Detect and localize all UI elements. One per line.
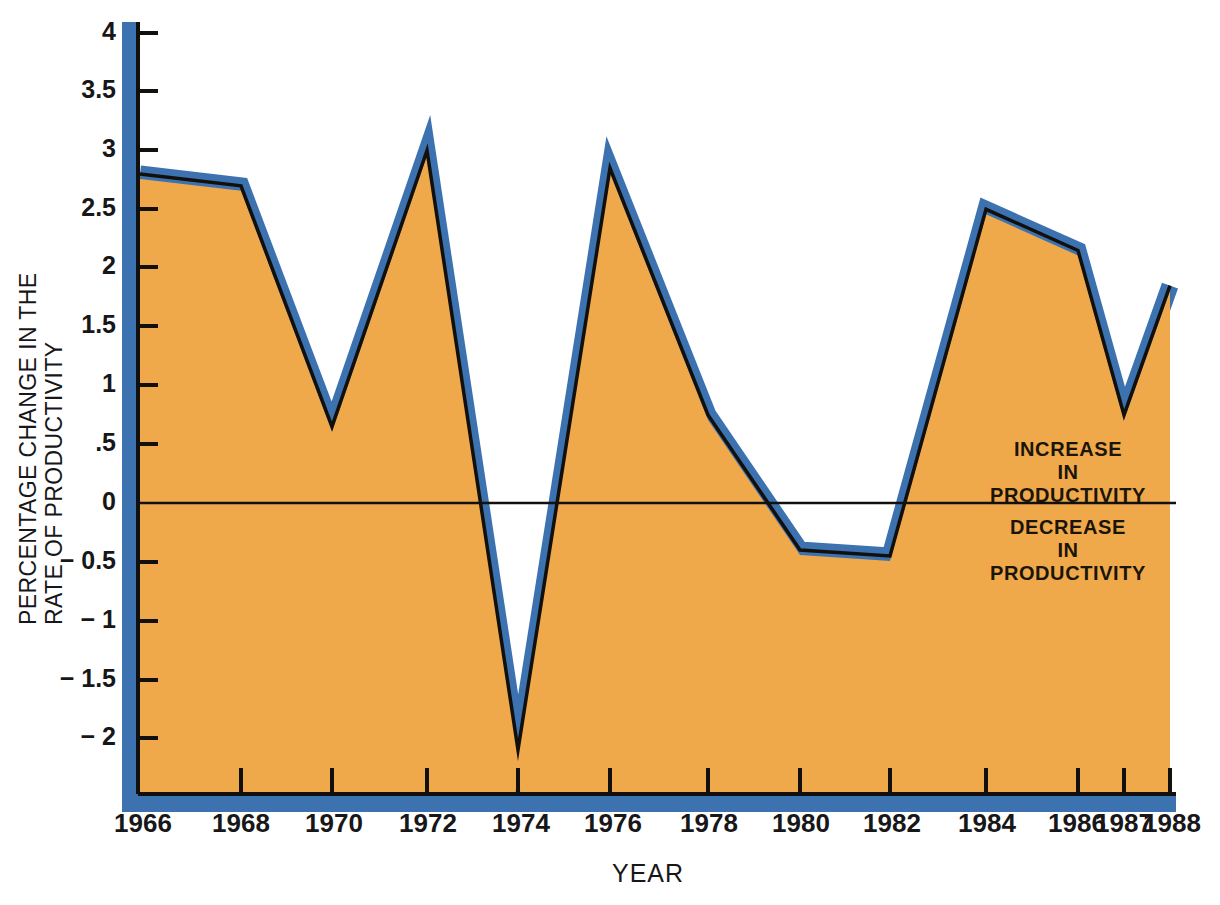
increase-annotation-line2: IN <box>1057 461 1078 483</box>
y-tick-label-neg0p5: − 0.5 <box>60 546 116 574</box>
y-axis-title-line2: RATE OF PRODUCTIVITY <box>41 341 67 625</box>
x-tick-label-1984: 1984 <box>958 808 1016 838</box>
y-tick-label-2: 2 <box>102 251 116 279</box>
decrease-annotation-line2: IN <box>1057 539 1078 561</box>
y-tick-label-3: 3 <box>102 134 116 162</box>
y-tick-label-neg1: − 1 <box>81 605 117 633</box>
decrease-annotation-line1: DECREASE <box>1010 516 1126 538</box>
x-tick-label-1980: 1980 <box>772 808 830 838</box>
x-tick-label-1976: 1976 <box>584 808 642 838</box>
bottom-blue-band <box>122 796 1176 812</box>
x-tick-label-1978: 1978 <box>680 808 738 838</box>
x-tick-label-1982: 1982 <box>863 808 921 838</box>
decrease-annotation-line3: PRODUCTIVITY <box>990 562 1146 584</box>
x-tick-label-1968: 1968 <box>212 808 270 838</box>
y-tick-label-2p5: 2.5 <box>81 193 116 221</box>
x-tick-label-1970: 1970 <box>305 808 363 838</box>
y-tick-label-1p5: 1.5 <box>81 310 116 338</box>
y-tick-label-1: 1 <box>102 369 116 397</box>
x-tick-label-1988: 1988 <box>1143 808 1201 838</box>
y-tick-label-4: 4 <box>102 17 116 45</box>
x-tick-label-1974: 1974 <box>492 808 550 838</box>
y-tick-label-0p5: .5 <box>95 428 116 456</box>
chart-svg: 4 3.5 3 2.5 2 1.5 1 .5 0 − 0.5 − 1 − 1.5… <box>0 0 1220 905</box>
increase-annotation-line3: PRODUCTIVITY <box>990 484 1146 506</box>
left-blue-band <box>122 22 138 812</box>
y-tick-label-0: 0 <box>102 487 116 515</box>
x-tick-label-1972: 1972 <box>399 808 457 838</box>
x-axis-title: YEAR <box>612 859 684 887</box>
productivity-area-chart: 4 3.5 3 2.5 2 1.5 1 .5 0 − 0.5 − 1 − 1.5… <box>0 0 1220 905</box>
y-tick-label-neg2: − 2 <box>81 722 116 750</box>
y-axis-title-line1: PERCENTAGE CHANGE IN THE <box>15 272 41 625</box>
increase-annotation-line1: INCREASE <box>1014 438 1122 460</box>
y-tick-label-neg1p5: − 1.5 <box>60 664 116 692</box>
y-tick-label-3p5: 3.5 <box>81 75 116 103</box>
x-tick-label-1966: 1966 <box>114 808 172 838</box>
